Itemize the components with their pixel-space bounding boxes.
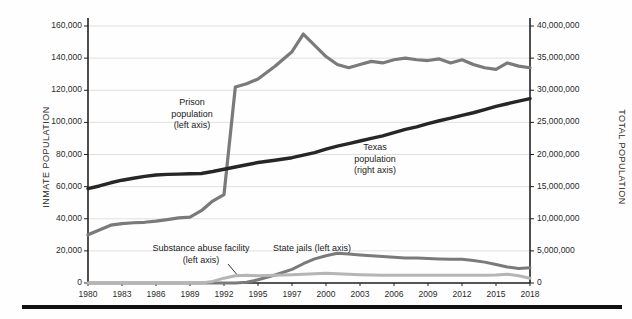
bottom-rule-divider (22, 305, 622, 309)
series-line (88, 34, 530, 235)
annotation-texas-line3: (right axis) (330, 165, 420, 177)
series-line (88, 273, 530, 283)
annotation-state-jails-line1: State jails (left axis) (273, 243, 351, 255)
annotation-texas-line1: Texas (330, 142, 420, 154)
annotation-substance-line1: Substance abuse facility (131, 243, 271, 255)
annotation-prison-population: Prison population (left axis) (147, 97, 237, 132)
annotation-substance-line2: (left axis) (131, 255, 271, 267)
annotation-texas-population: Texas population (right axis) (330, 142, 420, 177)
annotation-substance-abuse-facility: Substance abuse facility (left axis) (131, 243, 271, 266)
annotation-prison-line3: (left axis) (147, 120, 237, 132)
chart-figure: INMATE POPULATION TOTAL POPULATION 020,0… (0, 0, 632, 319)
line-chart-plot (0, 0, 632, 319)
annotation-prison-line2: population (147, 109, 237, 121)
annotation-prison-line1: Prison (147, 97, 237, 109)
annotation-state-jails: State jails (left axis) (273, 243, 351, 255)
annotation-texas-line2: population (330, 154, 420, 166)
